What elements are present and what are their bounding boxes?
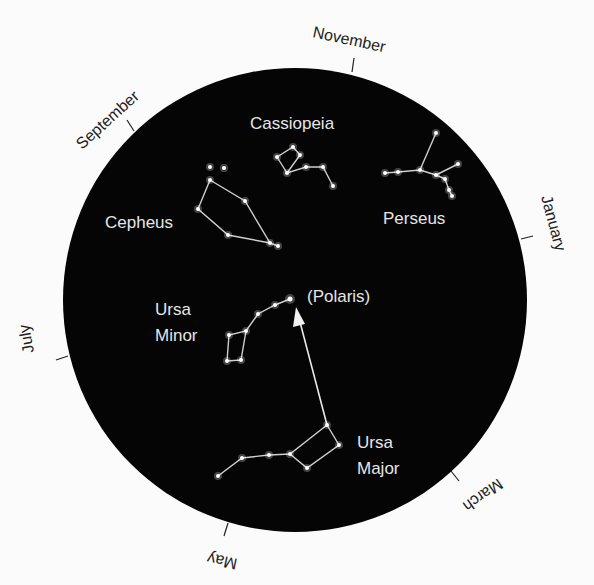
label-perseus: Perseus [383,209,445,228]
month-november: November [311,23,387,55]
month-january: January [538,193,569,252]
month-march: March [460,476,506,515]
label-cassiopeia: Cassiopeia [250,114,335,133]
label-ursa-major-line1: Ursa [357,433,393,452]
sky-disc [63,68,527,532]
label-ursa-minor-line2: Minor [155,326,198,345]
month-may: May [206,550,239,573]
month-july: July [15,323,37,354]
label-cepheus: Cepheus [105,213,173,232]
label-ursa-major-line2: Major [357,459,400,478]
label-polaris: (Polaris) [307,287,370,306]
label-ursa-minor-line1: Ursa [155,300,191,319]
star-chart: November January March May July Septembe… [0,0,594,585]
